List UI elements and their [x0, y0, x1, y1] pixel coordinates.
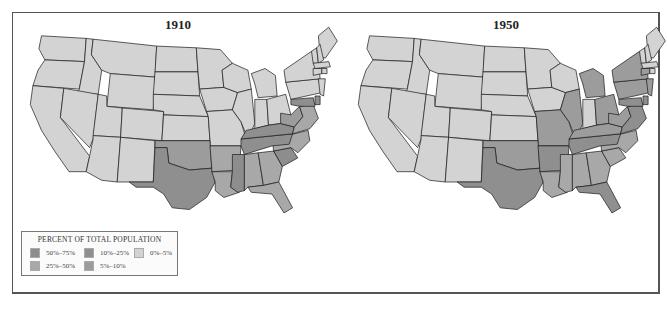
legend-label: 25%–50%	[46, 262, 75, 270]
legend-swatch-5-10	[84, 261, 94, 271]
state-de	[643, 96, 648, 105]
state-fl	[576, 182, 621, 213]
state-in	[255, 99, 269, 128]
state-co	[121, 108, 164, 141]
state-nm	[445, 137, 483, 182]
legend-item-50-75: 50%–75%	[30, 248, 75, 258]
legend-title: PERCENT OF TOTAL POPULATION	[22, 235, 177, 244]
state-in	[583, 99, 597, 128]
state-ks	[162, 115, 210, 141]
state-nd	[155, 46, 198, 72]
legend-swatch-10-25	[84, 248, 94, 258]
state-ia	[200, 87, 238, 111]
state-nm	[117, 137, 155, 182]
legend-swatch-25-50	[30, 261, 40, 271]
state-de	[315, 96, 320, 105]
state-or	[33, 60, 85, 89]
legend-item-10-25: 10%–25%	[84, 248, 129, 258]
state-ri	[322, 69, 327, 74]
state-ct	[313, 69, 322, 76]
legend-swatch-50-75	[30, 248, 40, 258]
legend-label: 5%–10%	[100, 262, 126, 270]
state-sd	[153, 72, 199, 96]
state-co	[449, 108, 492, 141]
state-wy	[435, 74, 483, 110]
state-wi	[550, 63, 579, 92]
state-ia	[528, 87, 566, 111]
state-ms	[559, 155, 573, 193]
state-ri	[650, 69, 655, 74]
legend: PERCENT OF TOTAL POPULATION 50%–75% 25%–…	[21, 231, 178, 276]
state-fl	[248, 182, 293, 213]
us-map-1910	[18, 0, 338, 230]
state-ct	[641, 69, 650, 76]
state-or	[361, 60, 413, 89]
state-wi	[222, 63, 251, 92]
state-wy	[107, 74, 155, 110]
legend-item-25-50: 25%–50%	[30, 261, 75, 271]
legend-label: 0%–5%	[150, 249, 172, 257]
legend-item-0-5: 0%–5%	[134, 248, 172, 258]
state-md	[619, 98, 643, 107]
state-sd	[481, 72, 527, 96]
state-mi	[579, 69, 605, 98]
state-md	[291, 98, 315, 107]
legend-label: 10%–25%	[100, 249, 129, 257]
state-ks	[490, 115, 538, 141]
state-wa	[367, 36, 414, 62]
state-mi	[251, 69, 277, 98]
legend-item-5-10: 5%–10%	[84, 261, 126, 271]
legend-label: 50%–75%	[46, 249, 75, 257]
state-nd	[483, 46, 526, 72]
state-wa	[39, 36, 86, 62]
us-map-1950	[346, 0, 666, 230]
state-ms	[231, 155, 245, 193]
legend-swatch-0-5	[134, 248, 144, 258]
